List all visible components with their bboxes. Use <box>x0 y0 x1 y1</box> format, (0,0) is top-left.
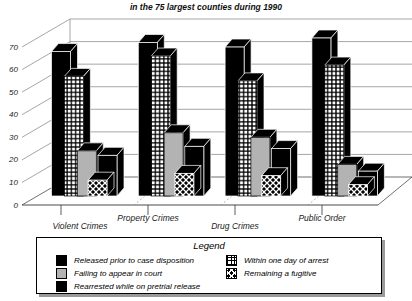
pretrial-release-bar-chart: 010203040506070Violent CrimesProperty Cr… <box>0 0 412 236</box>
legend-item-label: Released prior to case disposition <box>74 255 194 266</box>
legend-column: Within one day of arrestRemaining a fugi… <box>226 255 328 292</box>
legend-item: Remaining a fugitive <box>226 268 328 279</box>
bar-front-face <box>175 173 194 196</box>
y-axis-tick-label: 20 <box>8 155 18 164</box>
gridline-left-wall <box>22 19 70 47</box>
bar-front-face <box>262 176 281 196</box>
legend-item: Released prior to case disposition <box>56 255 214 266</box>
legend-swatch-solid-gray <box>56 268 67 279</box>
legend-item-label: Failing to appear in court <box>74 268 162 279</box>
y-axis-tick-label: 70 <box>9 43 18 52</box>
legend-item: Within one day of arrest <box>226 255 328 266</box>
legend: Legend Released prior to case dispositio… <box>36 237 382 294</box>
y-axis-tick-label: 40 <box>9 110 18 119</box>
legend-item-label: Within one day of arrest <box>244 255 328 266</box>
legend-item: Failing to appear in court <box>56 268 214 279</box>
legend-title: Legend <box>37 240 381 251</box>
legend-swatch-solid-black <box>56 255 67 266</box>
y-axis-tick-label: 10 <box>9 178 18 187</box>
chart-bars <box>52 30 385 196</box>
bar-front-face <box>348 185 367 196</box>
y-axis-tick-label: 30 <box>9 133 18 142</box>
category-label: Public Order <box>298 213 346 223</box>
legend-swatch-crosshatch <box>226 268 237 279</box>
bar-side-face <box>291 141 298 196</box>
legend-swatch-solid-black <box>56 281 67 292</box>
legend-item-label: Rearrested while on pretrial release <box>74 281 200 292</box>
legend-columns: Released prior to case dispositionFailin… <box>37 255 381 292</box>
y-axis-tick-label: 60 <box>9 65 18 74</box>
bar-front-face <box>88 180 107 196</box>
legend-swatch-grid <box>226 255 237 266</box>
y-axis-tick-label: 0 <box>14 201 19 210</box>
category-label: Violent Crimes <box>52 221 108 231</box>
bar-side-face <box>117 147 124 196</box>
category-label: Property Crimes <box>117 213 179 223</box>
bar <box>175 165 201 196</box>
legend-item: Rearrested while on pretrial release <box>56 281 214 292</box>
category-label: Drug Crimes <box>211 221 259 231</box>
bar <box>262 168 288 196</box>
bar-side-face <box>204 138 211 196</box>
legend-column: Released prior to case dispositionFailin… <box>56 255 214 292</box>
bar <box>88 172 114 196</box>
legend-item-label: Remaining a fugitive <box>244 268 316 279</box>
y-axis-tick-label: 50 <box>9 88 18 97</box>
